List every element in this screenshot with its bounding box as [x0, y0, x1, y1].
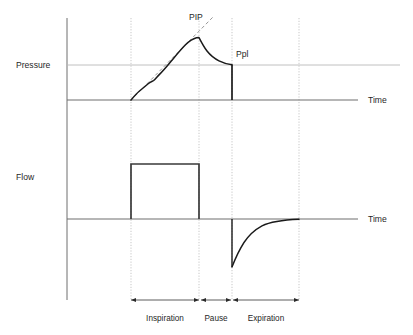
arrow-head-right-pause	[226, 298, 231, 302]
arrow-head-left-expiration	[233, 298, 238, 302]
vertical-gridlines	[131, 18, 299, 300]
arrow-head-left-pause	[201, 298, 206, 302]
phase-label-inspiration: Inspiration	[146, 314, 184, 323]
flow-axis-label: Flow	[16, 172, 35, 182]
phase-arrow-inspiration	[131, 298, 199, 302]
phase-label-pause: Pause	[204, 314, 228, 323]
time-axis-label-flow: Time	[368, 214, 387, 224]
phase-arrow-expiration	[233, 298, 299, 302]
arrow-head-left-inspiration	[131, 298, 136, 302]
ppl-marker-label: Ppl	[236, 49, 249, 59]
phase-arrow-pause	[201, 298, 231, 302]
waveform-svg-canvas: Pressure Flow Time Time PIP Ppl Inspirat…	[0, 0, 413, 335]
pip-marker-label: PIP	[189, 12, 203, 22]
ventilator-waveform-diagram: Pressure Flow Time Time PIP Ppl Inspirat…	[0, 0, 413, 335]
phase-label-expiration: Expiration	[248, 314, 285, 323]
arrow-head-right-expiration	[294, 298, 299, 302]
expiratory-flow-decay-curve	[232, 219, 299, 267]
arrow-head-right-inspiration	[194, 298, 199, 302]
phase-arrow-bars	[131, 298, 299, 302]
pressure-waveform-curve	[131, 38, 232, 100]
time-axis-label-pressure: Time	[368, 95, 387, 105]
pressure-axis-label: Pressure	[16, 60, 51, 70]
inspiratory-flow-square-wave	[131, 164, 199, 219]
